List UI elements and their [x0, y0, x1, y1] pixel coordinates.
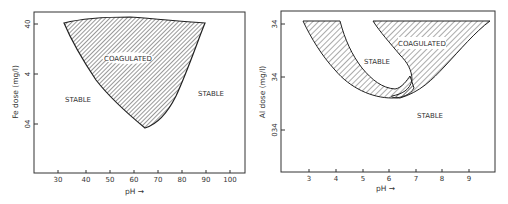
- fe-coagulated-region: [64, 17, 205, 128]
- fe-y-label: Fe dose (mg/l): [11, 65, 20, 119]
- fe-x-axis: 30 40 50 60 70 80 90 100 pH →: [54, 170, 237, 196]
- fe-chart: COAGULATED STABLE STABLE 40 4 04 Fe dose…: [11, 12, 245, 196]
- svg-text:34: 34: [271, 19, 279, 28]
- svg-text:90: 90: [202, 176, 211, 184]
- svg-text:04: 04: [24, 119, 32, 128]
- al-x-axis: 3 4 5 6 7 8 9 pH →: [307, 169, 471, 193]
- fe-stable-right-label: STABLE: [198, 90, 224, 98]
- svg-text:034: 034: [271, 123, 279, 137]
- svg-text:100: 100: [223, 176, 236, 184]
- svg-text:7: 7: [414, 175, 418, 183]
- al-stable-inner-label: STABLE: [364, 58, 390, 66]
- svg-text:5: 5: [361, 175, 365, 183]
- al-coagulated-region: [373, 21, 490, 98]
- svg-text:30: 30: [54, 176, 63, 184]
- svg-text:9: 9: [467, 175, 471, 183]
- fe-stable-left-label: STABLE: [65, 96, 91, 104]
- svg-text:4: 4: [24, 71, 32, 76]
- svg-text:80: 80: [178, 176, 187, 184]
- svg-text:34: 34: [271, 72, 279, 81]
- figure: COAGULATED STABLE STABLE 40 4 04 Fe dose…: [0, 0, 508, 204]
- al-stable-outer-label: STABLE: [417, 112, 443, 120]
- svg-text:8: 8: [440, 175, 444, 183]
- svg-text:60: 60: [130, 176, 139, 184]
- svg-text:4: 4: [334, 175, 339, 183]
- svg-text:40: 40: [24, 20, 32, 29]
- al-x-label: pH →: [376, 184, 395, 193]
- fe-x-label: pH →: [125, 187, 144, 196]
- al-chart: COAGULATED STABLE STABLE 34 34 034 Al do…: [258, 11, 495, 193]
- svg-text:40: 40: [82, 176, 91, 184]
- svg-text:3: 3: [307, 175, 311, 183]
- svg-text:50: 50: [106, 176, 115, 184]
- svg-text:70: 70: [154, 176, 163, 184]
- al-y-label: Al dose (mg/l): [258, 66, 267, 118]
- fe-coag-label: COAGULATED: [104, 55, 152, 63]
- svg-text:6: 6: [387, 175, 392, 183]
- al-coag-label: COAGULATED: [398, 40, 446, 48]
